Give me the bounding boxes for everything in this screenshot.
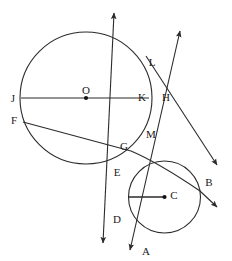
segment-FG: [23, 122, 131, 151]
point-label-O: O: [82, 85, 90, 96]
line-LB-upper: [146, 56, 217, 165]
point-label-E: E: [114, 167, 121, 178]
point-label-J: J: [11, 93, 15, 104]
dot-C: [162, 195, 166, 199]
point-label-F: F: [11, 115, 17, 126]
point-label-H: H: [162, 92, 170, 103]
point-label-A: A: [142, 246, 150, 257]
dot-O: [84, 96, 88, 100]
point-label-L: L: [149, 57, 156, 68]
point-label-B: B: [205, 177, 212, 188]
line-LD: [103, 13, 114, 243]
point-label-M: M: [146, 129, 156, 140]
point-label-D: D: [113, 214, 121, 225]
point-label-K: K: [138, 92, 146, 103]
point-label-G: G: [120, 141, 128, 152]
geometry-diagram: J O K H L F G M E D C B A: [0, 0, 232, 261]
point-label-C: C: [170, 190, 177, 201]
